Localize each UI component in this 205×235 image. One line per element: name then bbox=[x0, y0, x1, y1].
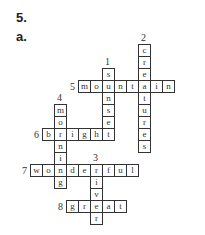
crossword-grid: sunset1creatures2river3morning4montin5bi… bbox=[0, 0, 205, 235]
clue-number: 5 bbox=[70, 82, 75, 92]
crossword-cell[interactable]: t bbox=[126, 80, 139, 93]
clue-number: 7 bbox=[22, 166, 27, 176]
crossword-cell[interactable]: h bbox=[90, 128, 103, 141]
crossword-cell[interactable]: l bbox=[126, 164, 139, 177]
crossword-cell[interactable]: s bbox=[138, 140, 151, 153]
crossword-cell[interactable]: r bbox=[90, 212, 103, 225]
crossword-cell[interactable]: n bbox=[162, 80, 175, 93]
crossword-cell[interactable]: r bbox=[78, 200, 91, 213]
crossword-cell[interactable]: g bbox=[54, 176, 67, 189]
clue-number: 4 bbox=[57, 93, 62, 103]
crossword-cell[interactable]: b bbox=[42, 128, 55, 141]
crossword-cell[interactable]: e bbox=[78, 164, 91, 177]
clue-number: 3 bbox=[93, 153, 98, 163]
crossword-cell[interactable]: t bbox=[114, 200, 127, 213]
clue-number: 8 bbox=[58, 202, 63, 212]
crossword-cell[interactable]: t bbox=[102, 128, 115, 141]
clue-number: 1 bbox=[105, 57, 110, 67]
crossword-cell[interactable]: o bbox=[42, 164, 55, 177]
clue-number: 2 bbox=[141, 33, 146, 43]
crossword-cell[interactable]: o bbox=[90, 80, 103, 93]
clue-number: 6 bbox=[34, 130, 39, 140]
